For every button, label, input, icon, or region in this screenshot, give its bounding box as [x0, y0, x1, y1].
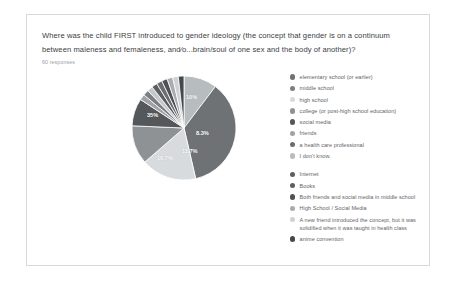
- legend-item[interactable]: high school: [290, 96, 418, 104]
- legend-item[interactable]: middle school: [290, 84, 418, 92]
- legend-item-label: Internet: [300, 170, 319, 178]
- legend-item[interactable]: anime convention: [290, 235, 418, 243]
- chart-area: 10%8.3%11.7%16.7%35% elementary school (…: [42, 71, 414, 253]
- legend-swatch-circle-icon: [290, 131, 295, 136]
- legend-item-label: Books: [300, 182, 316, 190]
- form-response-card: Where was the child FIRST introduced to …: [26, 14, 430, 266]
- legend-swatch-circle-icon: [290, 183, 295, 188]
- pie-slice-value-label: 11.7%: [182, 148, 198, 154]
- legend-item-label: High School / Social Media: [300, 204, 367, 212]
- pie-slice-value-label: 8.3%: [196, 130, 209, 136]
- pie-svg: [130, 74, 238, 182]
- legend-swatch-circle-icon: [290, 86, 295, 91]
- legend-item-label: Both friends and social media in middle …: [300, 193, 416, 201]
- legend-spacer: [290, 163, 418, 170]
- legend-swatch-circle-icon: [290, 194, 295, 199]
- response-count: 60 responses: [42, 59, 75, 65]
- pie-slice-value-label: 16.7%: [157, 155, 173, 161]
- legend-item-label: anime convention: [300, 235, 344, 243]
- legend-swatch-circle-icon: [290, 236, 295, 241]
- legend-item-label: friends: [300, 129, 317, 137]
- legend-item-label: social media: [300, 118, 331, 126]
- legend-item[interactable]: elementary school (or earlier): [290, 73, 418, 81]
- legend-item[interactable]: Books: [290, 182, 418, 190]
- pie-slice-value-label: 35%: [147, 112, 158, 118]
- legend-swatch-circle-icon: [290, 217, 295, 222]
- legend-item[interactable]: A new friend introduced the concept, but…: [290, 216, 418, 232]
- legend-item-label: college (or post-high school education): [300, 107, 397, 115]
- legend-item[interactable]: High School / Social Media: [290, 204, 418, 212]
- legend-swatch-circle-icon: [290, 142, 295, 147]
- legend-item[interactable]: Internet: [290, 170, 418, 178]
- page-title: Where was the child FIRST introduced to …: [42, 29, 414, 56]
- legend-swatch-circle-icon: [290, 119, 295, 124]
- legend-group-primary: elementary school (or earlier)middle sch…: [290, 73, 418, 160]
- legend-group-other: InternetBooksBoth friends and social med…: [290, 170, 418, 243]
- legend-item-label: a health care professional: [300, 141, 364, 149]
- legend-item[interactable]: a health care professional: [290, 141, 418, 149]
- legend-item-label: A new friend introduced the concept, but…: [300, 216, 418, 232]
- chart-legend: elementary school (or earlier)middle sch…: [290, 73, 418, 246]
- legend-item[interactable]: Both friends and social media in middle …: [290, 193, 418, 201]
- pie-chart[interactable]: 10%8.3%11.7%16.7%35%: [130, 74, 238, 182]
- screenshot-root: Where was the child FIRST introduced to …: [0, 0, 458, 282]
- legend-item-label: high school: [300, 96, 328, 104]
- legend-item[interactable]: friends: [290, 129, 418, 137]
- legend-item-label: elementary school (or earlier): [300, 73, 373, 81]
- legend-swatch-circle-icon: [290, 153, 295, 158]
- legend-item[interactable]: social media: [290, 118, 418, 126]
- legend-item[interactable]: I don't know.: [290, 152, 418, 160]
- legend-swatch-circle-icon: [290, 108, 295, 113]
- legend-swatch-circle-icon: [290, 74, 295, 79]
- legend-swatch-circle-icon: [290, 172, 295, 177]
- legend-item[interactable]: college (or post-high school education): [290, 107, 418, 115]
- pie-slice-value-label: 10%: [186, 94, 197, 100]
- legend-swatch-circle-icon: [290, 97, 295, 102]
- legend-item-label: I don't know.: [300, 152, 331, 160]
- legend-swatch-circle-icon: [290, 206, 295, 211]
- legend-item-label: middle school: [300, 84, 334, 92]
